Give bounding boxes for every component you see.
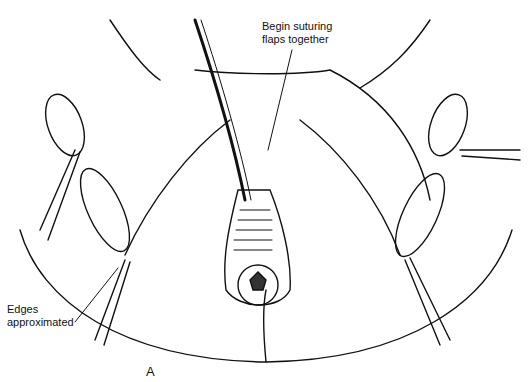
label-edges-approximated: Edges approximated: [7, 303, 74, 329]
label-line: Begin suturing: [262, 20, 332, 33]
label-begin-suturing: Begin suturing flaps together: [262, 20, 332, 46]
surgical-drawing: [0, 0, 531, 382]
label-line: Edges: [7, 303, 74, 316]
label-line: flaps together: [262, 33, 332, 46]
label-line: approximated: [7, 316, 74, 329]
illustration: Begin suturing flaps together Edges appr…: [0, 0, 531, 382]
panel-letter: A: [146, 364, 155, 379]
